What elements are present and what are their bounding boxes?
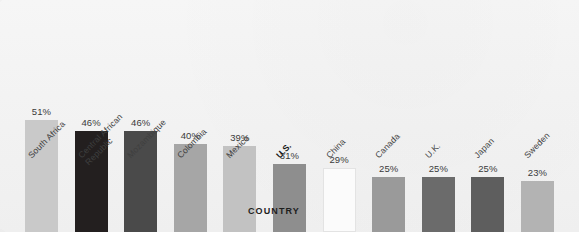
bar-group[interactable]: 25% (372, 85, 405, 232)
bar[interactable] (273, 164, 306, 232)
bar-value-label: 23% (528, 167, 547, 178)
bar[interactable] (372, 177, 405, 232)
bar-group[interactable]: 40% (174, 85, 207, 232)
bar-group[interactable]: 25% (471, 85, 504, 232)
bar-value-label: 46% (81, 117, 100, 128)
bar-group[interactable]: 23% (521, 85, 554, 232)
bar[interactable] (521, 181, 554, 232)
bar[interactable] (323, 168, 356, 232)
bar-group[interactable]: 51% (25, 85, 58, 232)
bar[interactable] (422, 177, 455, 232)
bar-chart: 51%South Africa46%Central AfricanRepubli… (0, 0, 579, 232)
bar[interactable] (223, 146, 256, 232)
bar-value-label: 25% (429, 163, 448, 174)
bar-value-label: 25% (379, 163, 398, 174)
bar-group[interactable]: 25% (422, 85, 455, 232)
bar-value-label: 46% (131, 117, 150, 128)
plot-area: 51%South Africa46%Central AfricanRepubli… (0, 0, 579, 232)
bar-group[interactable]: 29% (323, 85, 356, 232)
bar[interactable] (471, 177, 504, 232)
x-axis-title: COUNTRY (248, 206, 300, 216)
bar-value-label: 25% (478, 163, 497, 174)
bar-group[interactable]: 46% (124, 85, 157, 232)
bar-value-label: 51% (32, 106, 51, 117)
